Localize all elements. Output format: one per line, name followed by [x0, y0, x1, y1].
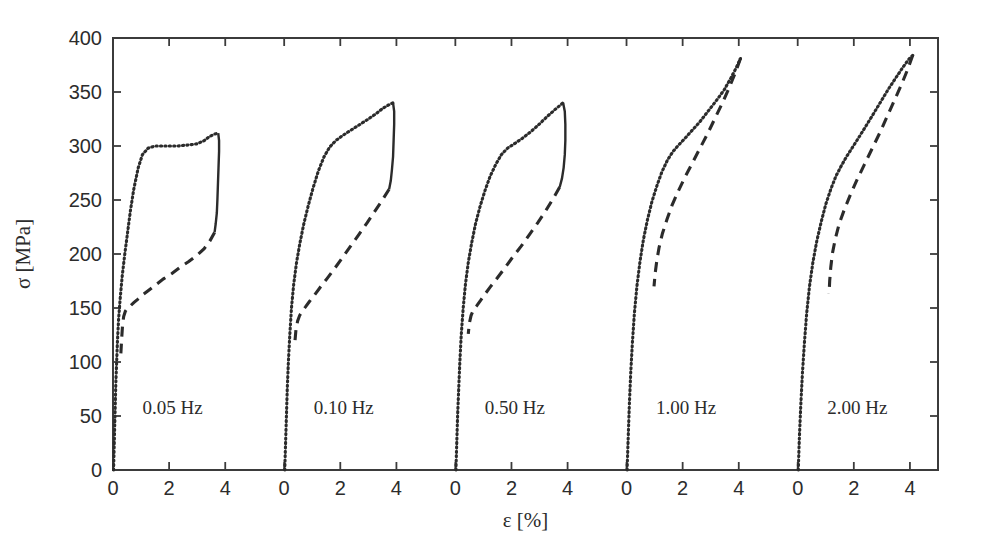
unloading-curve — [121, 232, 215, 353]
x-tick-label: 4 — [562, 477, 573, 499]
y-tick-label: 0 — [91, 459, 102, 481]
x-tick-label: 2 — [506, 477, 517, 499]
unloading-curve — [468, 187, 559, 334]
x-tick-label: 4 — [733, 477, 744, 499]
x-tick-label: 2 — [848, 477, 859, 499]
y-tick-label: 400 — [69, 27, 102, 49]
y-tick-label: 150 — [69, 297, 102, 319]
x-tick-label: 0 — [621, 477, 632, 499]
frequency-label-3: 1.00 Hz — [656, 397, 716, 418]
x-tick-labels: 024024024024024 — [107, 477, 915, 499]
peak-drop-curve — [560, 103, 566, 187]
y-tick-label: 100 — [69, 351, 102, 373]
x-tick-label: 0 — [450, 477, 461, 499]
frequency-label-4: 2.00 Hz — [827, 397, 887, 418]
curve-0-05-hz — [114, 133, 220, 470]
y-tick-label: 350 — [69, 81, 102, 103]
x-axis-label: ε [%] — [503, 508, 549, 532]
unloading-curve — [829, 55, 913, 294]
x-tick-label: 0 — [279, 477, 290, 499]
x-tick-label: 4 — [220, 477, 231, 499]
frequency-label-0: 0.05 Hz — [142, 397, 202, 418]
y-tick-labels: 050100150200250300350400 — [69, 27, 102, 481]
peak-drop-curve — [215, 133, 219, 232]
unloading-curve — [295, 189, 389, 342]
x-tick-label: 4 — [904, 477, 915, 499]
x-tick-label: 0 — [107, 477, 118, 499]
frequency-annotations: 0.05 Hz0.10 Hz0.50 Hz1.00 Hz2.00 Hz — [142, 397, 887, 418]
frequency-label-2: 0.50 Hz — [485, 397, 545, 418]
peak-drop-curve — [389, 103, 394, 189]
stress-strain-chart: 024024024024024 050100150200250300350400… — [0, 0, 982, 554]
figure-container: 024024024024024 050100150200250300350400… — [0, 0, 982, 554]
frequency-label-1: 0.10 Hz — [314, 397, 374, 418]
unloading-curve — [654, 59, 740, 287]
y-tick-label: 200 — [69, 243, 102, 265]
y-tick-label: 300 — [69, 135, 102, 157]
x-tick-label: 2 — [677, 477, 688, 499]
y-axis-label: σ [MPa] — [11, 219, 35, 289]
loading-curve — [114, 133, 219, 470]
x-tick-label: 4 — [391, 477, 402, 499]
y-tick-label: 250 — [69, 189, 102, 211]
y-tick-label: 50 — [80, 405, 102, 427]
x-tick-label: 2 — [164, 477, 175, 499]
x-tick-label: 2 — [335, 477, 346, 499]
x-tick-label: 0 — [792, 477, 803, 499]
